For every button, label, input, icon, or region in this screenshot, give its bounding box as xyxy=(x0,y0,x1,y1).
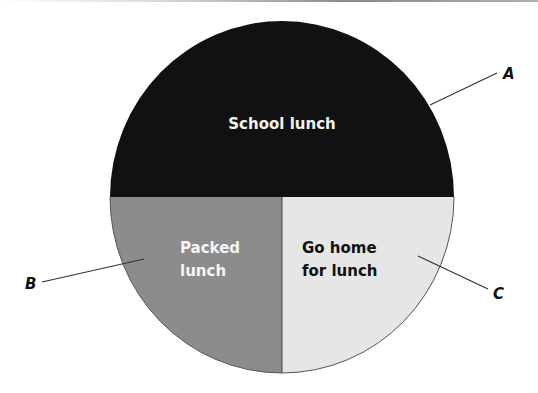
label-home-line2: for lunch xyxy=(302,262,378,280)
callout-letter-b: B xyxy=(25,275,36,293)
callout-letter-a: A xyxy=(502,65,515,83)
label-packed-line1: Packed xyxy=(180,239,240,257)
label-home-line1: Go home xyxy=(302,239,377,257)
callout-letter-c: C xyxy=(493,285,504,303)
slice-school-lunch xyxy=(110,21,454,197)
label-packed-line2: lunch xyxy=(180,262,226,280)
slice-go-home-for-lunch xyxy=(282,197,454,373)
slice-packed-lunch xyxy=(110,197,282,373)
label-school-lunch: School lunch xyxy=(228,115,335,133)
pie-chart: School lunch Packed lunch Go home for lu… xyxy=(0,0,538,393)
callout-line-a xyxy=(430,73,497,105)
